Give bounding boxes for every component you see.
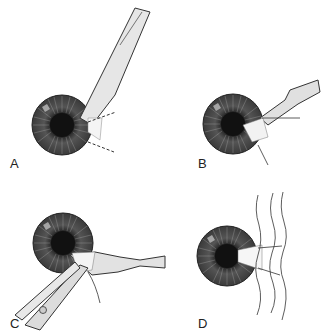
panel-c — [15, 213, 165, 330]
panel-label-a: A — [10, 156, 19, 171]
panel-b — [203, 80, 320, 165]
panel-label-b: B — [198, 156, 207, 171]
panel-label-d: D — [198, 316, 207, 331]
panel-label-c: C — [10, 316, 19, 331]
figure-canvas — [0, 0, 329, 334]
panel-a — [32, 8, 150, 155]
panel-d — [197, 192, 286, 320]
